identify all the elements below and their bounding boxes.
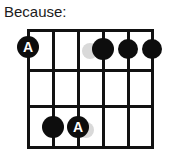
chord-dot [92, 38, 114, 60]
chord-dot-labeled: A [17, 36, 39, 58]
chord-dot [42, 116, 64, 138]
chord-dot-label-text: A [73, 120, 83, 134]
chord-dot-labeled: A [67, 116, 89, 138]
chord-dot [118, 39, 138, 59]
fret-line-3 [27, 146, 154, 149]
fret-line-nut [27, 29, 154, 32]
fret-line-1 [27, 69, 154, 72]
chord-dot-label-text: A [23, 40, 33, 54]
chord-diagram-screenshot: Because: AA [0, 0, 169, 159]
fret-line-2 [27, 105, 154, 108]
chord-dot [142, 39, 162, 59]
fretboard-diagram: AA [0, 0, 169, 159]
